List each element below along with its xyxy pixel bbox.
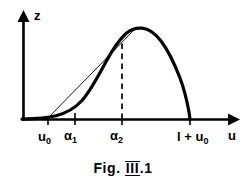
x-axis-label: u: [228, 129, 236, 142]
tick-text-u0: u0: [38, 129, 51, 144]
figure-caption: Fig. III.1: [0, 160, 246, 176]
caption-suffix: .1: [140, 160, 153, 176]
caption-prefix: Fig.: [93, 160, 125, 176]
main-curve: [22, 28, 190, 119]
tick-text-l-plus-u0: l + u0: [177, 129, 208, 144]
x-tick-label-u0: zu0: [38, 130, 51, 143]
y-axis-label: z: [34, 9, 41, 22]
x-tick-label-l-plus-u0: l + u0: [177, 130, 208, 143]
caption-roman-numeral: III: [125, 161, 139, 176]
y-axis-arrowhead: [18, 10, 30, 22]
chord-line: [47, 30, 134, 119]
figure-container: z u zu0 α1 α2 l + u0 Fig. III.1: [0, 0, 246, 185]
x-tick-label-alpha1: α1: [64, 129, 77, 142]
x-axis-arrowhead: [228, 114, 240, 126]
tick-text-alpha2: α2: [110, 128, 123, 143]
plot-canvas: [0, 0, 246, 185]
tick-text-alpha1: α1: [64, 128, 77, 143]
x-tick-label-alpha2: α2: [110, 129, 123, 142]
